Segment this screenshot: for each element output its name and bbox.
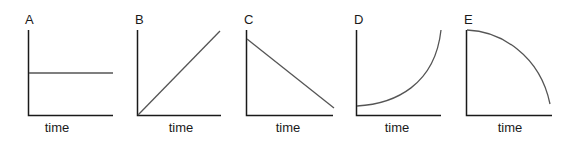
panel-label-e: E (464, 12, 473, 27)
curve-e-accelerating-decrease (467, 30, 550, 104)
x-axis-label-d: time (385, 120, 410, 135)
panel-b: B time (135, 12, 221, 135)
curve-d-exponential-increase (357, 30, 441, 106)
panel-a: A time (25, 12, 113, 135)
graphs-figure: A time B time C time D time E time (0, 0, 566, 144)
x-axis-label-b: time (169, 120, 194, 135)
panel-label-b: B (135, 12, 144, 27)
axes-d (357, 30, 442, 116)
panel-label-d: D (354, 12, 363, 27)
panel-label-c: C (244, 12, 253, 27)
x-axis-label-c: time (276, 120, 301, 135)
x-axis-label-e: time (498, 120, 523, 135)
panel-c: C time (244, 12, 334, 135)
panel-d: D time (354, 12, 441, 135)
x-axis-label-a: time (45, 120, 70, 135)
panel-e: E time (464, 12, 552, 135)
curve-b-linear-increase (138, 31, 220, 115)
curve-c-linear-decrease (247, 39, 334, 108)
panel-label-a: A (25, 12, 34, 27)
